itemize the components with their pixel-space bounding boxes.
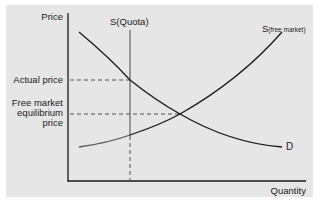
actual-price-label: Actual price — [6, 75, 63, 85]
demand-label: D — [286, 142, 293, 152]
supply-curve-upper — [130, 32, 282, 135]
quota-label: S(Quota) — [110, 17, 149, 27]
demand-curve — [79, 32, 282, 147]
supply-curve — [79, 135, 130, 147]
equilibrium-price-label: Free market equilibrium price — [4, 98, 63, 128]
equilibrium-label-line3: price — [4, 118, 63, 128]
x-axis-label: Quantity — [260, 186, 306, 196]
supply-label: S(free market) — [262, 24, 306, 35]
y-axis-label: Price — [30, 12, 63, 22]
supply-label-sub: (free market) — [268, 26, 305, 33]
